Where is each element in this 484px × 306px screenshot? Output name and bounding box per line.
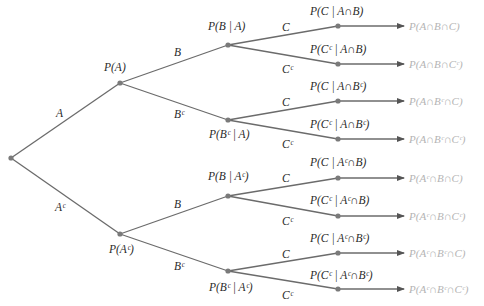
conditional-probability-label: P(C | Aᶜ∩B) [309, 156, 367, 169]
tree-labels: AP(A)AᶜP(Aᶜ)BP(B | A)BᶜP(Bᶜ | A)BP(B | A… [54, 5, 469, 301]
edge-label: B [174, 198, 181, 210]
conditional-probability-label: P(Bᶜ | A) [208, 128, 250, 141]
joint-probability-result: P(A∩Bᶜ∩Cᶜ) [408, 133, 466, 146]
edge-label: Cᶜ [282, 289, 294, 301]
joint-probability-result: P(Aᶜ∩B∩Cᶜ) [408, 210, 466, 223]
probability-label: P(Aᶜ) [108, 243, 134, 256]
edge-label: C [282, 172, 290, 184]
node-level2 [225, 268, 230, 273]
node-level2 [225, 193, 230, 198]
edge-label: C [282, 96, 290, 108]
node-level3 [335, 250, 340, 255]
joint-probability-result: P(A∩B∩Cᶜ) [408, 58, 463, 71]
node-level2 [225, 42, 230, 47]
probability-tree: AP(A)AᶜP(Aᶜ)BP(B | A)BᶜP(Bᶜ | A)BP(B | A… [0, 0, 484, 306]
edge-Ac [11, 158, 120, 234]
conditional-probability-label: P(Cᶜ | A∩B) [309, 43, 367, 56]
joint-probability-result: P(Aᶜ∩Bᶜ∩C) [408, 247, 466, 260]
edge-label: Bᶜ [174, 108, 185, 120]
node-level3 [335, 175, 340, 180]
joint-probability-result: P(Aᶜ∩B∩C) [408, 172, 463, 185]
conditional-probability-label: P(B | A) [207, 20, 246, 33]
edge-A [11, 83, 120, 158]
edge-label: Aᶜ [54, 201, 66, 213]
node-level3 [335, 98, 340, 103]
conditional-probability-label: P(Cᶜ | A∩Bᶜ) [309, 118, 370, 131]
edge-label: C [282, 21, 290, 33]
conditional-probability-label: P(B | Aᶜ) [207, 170, 249, 183]
node-level3 [335, 213, 340, 218]
joint-probability-result: P(A∩Bᶜ∩C) [408, 95, 463, 108]
conditional-probability-label: P(C | A∩Bᶜ) [309, 80, 367, 93]
edge-label: Cᶜ [282, 138, 294, 150]
node-level3 [335, 23, 340, 28]
edge-label: Bᶜ [174, 260, 185, 272]
conditional-probability-label: P(C | Aᶜ∩Bᶜ) [309, 232, 370, 245]
conditional-probability-label: P(Cᶜ | Aᶜ∩B) [309, 194, 370, 207]
node-level3 [335, 136, 340, 141]
conditional-probability-label: P(Cᶜ | Aᶜ∩Bᶜ) [309, 269, 373, 282]
conditional-probability-label: P(Bᶜ | Aᶜ) [208, 281, 253, 294]
probability-label: P(A) [103, 61, 126, 74]
edge-label: C [282, 248, 290, 260]
edge-label: B [174, 46, 181, 58]
conditional-probability-label: P(C | A∩B) [309, 5, 364, 18]
node-level3 [335, 61, 340, 66]
edge-label: Cᶜ [282, 215, 294, 227]
root-node [8, 155, 13, 160]
edge-label: A [55, 107, 64, 119]
joint-probability-result: P(A∩B∩C) [408, 20, 460, 33]
node-level3 [335, 286, 340, 291]
node-A [117, 80, 122, 85]
edge-label: Cᶜ [282, 63, 294, 75]
node-Ac [117, 231, 122, 236]
node-level2 [225, 117, 230, 122]
joint-probability-result: P(Aᶜ∩Bᶜ∩Cᶜ) [408, 283, 469, 296]
